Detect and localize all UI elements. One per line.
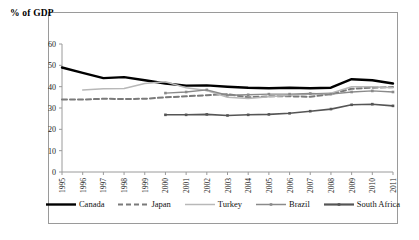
legend-item-brazil[interactable]: Brazil (256, 199, 310, 209)
svg-text:40: 40 (48, 83, 56, 92)
legend-item-turkey[interactable]: Turkey (185, 199, 242, 209)
legend-item-japan[interactable]: Japan (118, 199, 170, 209)
x-axis-tick-labels: 1995199619971998199920002001200220032004… (58, 172, 398, 193)
svg-text:2000: 2000 (161, 178, 170, 193)
svg-text:30: 30 (48, 104, 56, 113)
svg-text:1996: 1996 (79, 178, 88, 193)
chart-legend: CanadaJapanTurkeyBrazilSouth Africa (49, 196, 397, 212)
svg-text:2009: 2009 (348, 178, 357, 193)
svg-text:2011: 2011 (389, 178, 398, 193)
legend-label: Turkey (218, 199, 242, 209)
svg-text:60: 60 (48, 40, 56, 49)
y-axis-tick-labels: 0102030405060 (48, 40, 62, 177)
svg-text:2008: 2008 (327, 178, 336, 193)
chart-series-group (62, 68, 394, 117)
legend-swatch-canada-icon (46, 200, 76, 209)
svg-text:2010: 2010 (368, 178, 377, 193)
svg-text:1998: 1998 (120, 178, 129, 193)
svg-text:50: 50 (48, 61, 56, 70)
svg-text:1997: 1997 (99, 178, 108, 193)
legend-swatch-brazil-icon (256, 200, 286, 209)
svg-text:2001: 2001 (182, 178, 191, 193)
svg-text:10: 10 (48, 147, 56, 156)
series-south-africa (164, 103, 394, 117)
legend-label: Brazil (289, 199, 310, 209)
legend-item-canada[interactable]: Canada (46, 199, 105, 209)
svg-text:1999: 1999 (141, 178, 150, 193)
svg-text:2005: 2005 (265, 178, 274, 193)
legend-item-south-africa[interactable]: South Africa (324, 199, 400, 209)
svg-text:20: 20 (48, 125, 56, 134)
chart-axes (62, 44, 393, 172)
svg-text:2003: 2003 (224, 178, 233, 193)
legend-label: South Africa (357, 199, 400, 209)
svg-text:2006: 2006 (286, 178, 295, 193)
legend-swatch-japan-icon (118, 200, 148, 209)
svg-text:0: 0 (52, 168, 56, 177)
legend-swatch-turkey-icon (185, 200, 215, 209)
legend-label: Japan (151, 199, 170, 209)
svg-text:1995: 1995 (58, 178, 67, 193)
legend-label: Canada (79, 199, 105, 209)
svg-text:2002: 2002 (203, 178, 212, 193)
svg-text:2004: 2004 (244, 178, 253, 193)
series-canada (62, 68, 393, 89)
svg-text:2007: 2007 (306, 178, 315, 193)
legend-swatch-south-africa-icon (324, 200, 354, 209)
